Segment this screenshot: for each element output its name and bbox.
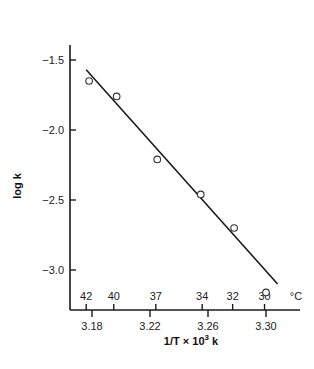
celsius-tick-label: 32 xyxy=(227,290,239,302)
x-tick-label: 3.18 xyxy=(81,320,102,332)
celsius-unit-label: °C xyxy=(290,290,302,302)
regression-line xyxy=(86,70,277,284)
data-point-marker xyxy=(86,78,93,85)
y-tick-label: −2.5 xyxy=(42,194,64,206)
data-point-marker xyxy=(263,289,270,296)
celsius-tick-label: 40 xyxy=(108,290,120,302)
y-tick-label: −3.0 xyxy=(42,264,64,276)
y-axis-title: log k xyxy=(11,172,23,199)
fit-line xyxy=(86,70,277,284)
data-point-marker xyxy=(197,191,204,198)
arrhenius-chart: −1.5−2.0−2.5−3.03.183.223.263.3042403734… xyxy=(0,0,314,369)
celsius-tick-label: 34 xyxy=(196,290,208,302)
celsius-tick-label: 42 xyxy=(80,290,92,302)
data-point-marker xyxy=(154,156,161,163)
data-point-marker xyxy=(113,93,120,100)
x-tick-label: 3.26 xyxy=(197,320,218,332)
x-tick-label: 3.22 xyxy=(139,320,160,332)
data-points xyxy=(86,78,270,296)
axes: −1.5−2.0−2.5−3.03.183.223.263.3042403734… xyxy=(42,45,302,332)
data-point-marker xyxy=(231,225,238,232)
x-tick-label: 3.30 xyxy=(255,320,276,332)
celsius-tick-label: 37 xyxy=(150,290,162,302)
y-tick-label: −1.5 xyxy=(42,54,64,66)
x-axis-title: 1/T × 103 k xyxy=(164,333,219,347)
y-tick-label: −2.0 xyxy=(42,124,64,136)
